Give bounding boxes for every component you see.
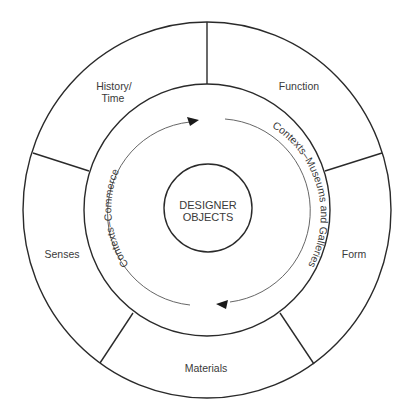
divider-upper-right [325, 153, 382, 171]
divider-lower-left [100, 313, 133, 363]
segment-label-form: Form [342, 248, 367, 260]
context-commerce-textpath: Contexts–Commerce [101, 167, 130, 271]
segment-label-history-line1: History/ [96, 80, 132, 92]
context-museums-textpath: Contexts–Museums and Galleries [271, 119, 331, 270]
segment-label-senses: Senses [44, 248, 79, 260]
context-label-museums: Contexts–Museums and Galleries [271, 119, 331, 270]
segment-label-materials: Materials [185, 362, 228, 374]
arrowhead-bottom-icon [216, 300, 228, 309]
segment-label-function: Function [279, 80, 319, 92]
segment-label-history-line2: Time [102, 92, 125, 104]
center-label-line1: DESIGNER [179, 199, 237, 211]
center-label-line2: OBJECTS [183, 211, 234, 223]
arrow-arc-left [108, 122, 190, 305]
divider-lower-right [280, 313, 314, 364]
context-label-commerce: Contexts–Commerce [101, 167, 130, 271]
divider-upper-left [33, 153, 89, 171]
arrowhead-top-icon [187, 117, 199, 126]
designer-objects-diagram: DESIGNER OBJECTS History/ Time Function … [0, 0, 409, 417]
